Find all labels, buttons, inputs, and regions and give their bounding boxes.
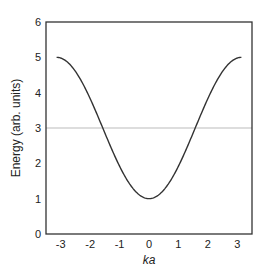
x-tick-label: 1 bbox=[175, 238, 181, 250]
y-tick-label: 6 bbox=[35, 16, 41, 28]
y-tick-label: 4 bbox=[35, 87, 41, 99]
x-tick-label: -1 bbox=[115, 238, 125, 250]
y-tick-label: 1 bbox=[35, 193, 41, 205]
y-tick-label: 5 bbox=[35, 51, 41, 63]
y-tick-label: 0 bbox=[35, 228, 41, 240]
x-axis-ticks: -3-2-10123 bbox=[56, 238, 241, 250]
x-tick-label: 3 bbox=[234, 238, 240, 250]
band-structure-chart: 0123456 -3-2-10123 ka Energy (arb. units… bbox=[0, 0, 265, 270]
x-tick-label: -2 bbox=[85, 238, 95, 250]
x-tick-label: -3 bbox=[56, 238, 66, 250]
y-axis-label: Energy (arb. units) bbox=[9, 79, 23, 178]
y-tick-label: 2 bbox=[35, 157, 41, 169]
y-tick-label: 3 bbox=[35, 122, 41, 134]
x-tick-label: 0 bbox=[146, 238, 152, 250]
x-axis-label: ka bbox=[143, 253, 156, 267]
y-axis-ticks: 0123456 bbox=[35, 16, 41, 240]
x-tick-label: 2 bbox=[205, 238, 211, 250]
